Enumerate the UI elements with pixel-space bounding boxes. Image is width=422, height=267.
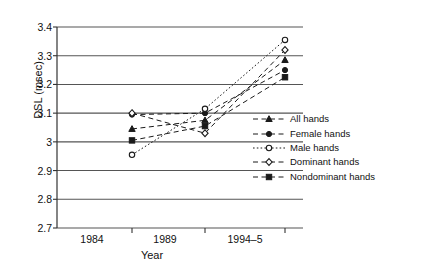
y-axis-tick-label: 2.9 [22,165,52,177]
legend-label: Female hands [290,128,350,140]
legend-label: Male hands [290,142,339,154]
x-axis-tick-label: 1984 [80,233,103,245]
chart-legend: All handsFemale handsMale handsDominant … [252,112,375,184]
data-point-marker [266,145,271,150]
data-point-marker [266,159,272,166]
data-point-marker [202,123,207,128]
data-point-marker [202,117,208,123]
x-axis-title: Year [57,249,247,261]
legend-item: All hands [252,112,375,126]
legend-marker-sample [252,128,286,140]
axis-lines [53,27,285,233]
legend-label: Nondominant hands [290,171,375,183]
legend-item: Nondominant hands [252,170,375,184]
series-female-hands [129,67,287,117]
legend-label: Dominant hands [290,156,359,168]
x-axis-tick-label: 1989 [153,233,176,245]
data-point-marker [282,67,287,72]
data-point-marker [266,174,271,179]
data-point-marker [202,106,207,111]
chart-container: 3.43.33.23.132.92.82.7 DSL (msec) Year A… [0,0,422,267]
legend-item: Female hands [252,126,375,140]
data-point-marker [129,152,134,157]
legend-item: Dominant hands [252,155,375,169]
legend-marker-sample [252,113,286,125]
data-point-marker [282,75,287,80]
data-point-marker [266,131,271,136]
y-axis-title: DSL (msec) [32,30,44,150]
legend-marker-sample [252,156,286,168]
data-point-marker [129,138,134,143]
data-point-marker [282,57,288,63]
data-point-marker [282,37,287,42]
x-axis-tick-label: 1994–5 [227,233,262,245]
y-axis-tick-label: 2.8 [22,193,52,205]
legend-marker-sample [252,171,286,183]
legend-marker-sample [252,142,286,154]
legend-label: All hands [290,113,329,125]
y-axis-tick-label: 2.7 [22,222,52,234]
legend-item: Male hands [252,141,375,155]
